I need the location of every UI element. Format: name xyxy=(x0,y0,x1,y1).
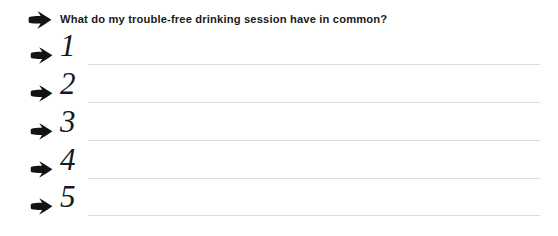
answer-write-in-line[interactable] xyxy=(88,215,540,216)
answer-write-in-line[interactable] xyxy=(88,178,540,179)
answer-number: 5 xyxy=(60,181,76,212)
answer-number: 3 xyxy=(60,106,76,137)
worksheet-page: What do my trouble-free drinking session… xyxy=(0,0,558,236)
prompt-question-text: What do my trouble-free drinking session… xyxy=(60,14,387,25)
bold-right-arrow-icon xyxy=(30,122,55,141)
answer-row[interactable]: 5 xyxy=(0,185,558,223)
bold-right-arrow-icon xyxy=(30,197,55,216)
answer-row[interactable]: 4 xyxy=(0,148,558,186)
answer-number: 4 xyxy=(60,144,76,175)
answer-write-in-line[interactable] xyxy=(88,64,540,65)
answer-number: 1 xyxy=(60,30,76,61)
answer-row[interactable]: 1 xyxy=(0,34,558,72)
answer-number: 2 xyxy=(60,68,76,99)
bold-right-arrow-icon xyxy=(28,10,54,30)
prompt-heading-row: What do my trouble-free drinking session… xyxy=(0,9,558,31)
answer-write-in-line[interactable] xyxy=(88,140,540,141)
answer-write-in-line[interactable] xyxy=(88,102,540,103)
answer-row[interactable]: 3 xyxy=(0,110,558,148)
bold-right-arrow-icon xyxy=(30,46,55,65)
answer-row[interactable]: 2 xyxy=(0,72,558,110)
bold-right-arrow-icon xyxy=(30,160,55,179)
bold-right-arrow-icon xyxy=(30,84,55,103)
